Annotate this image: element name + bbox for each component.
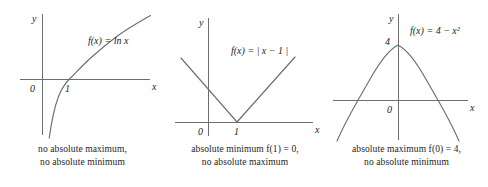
graph-four-minus-x-squared: y x 0 4 f(x) = 4 − x² [325,0,488,145]
tick-label-4: 4 [385,36,390,47]
x-axis-label: x [469,102,475,113]
function-label: f(x) = ln x [88,35,129,47]
ln-curve [49,16,150,139]
panel-four-minus-x-squared: y x 0 4 f(x) = 4 − x² absolute maximum f… [325,0,488,187]
tick-label-0: 0 [387,104,392,115]
tick-label-0: 0 [198,126,203,137]
absolute-value-curve [181,57,295,122]
function-label: f(x) = 4 − x² [410,25,461,37]
graph-abs-x-minus-1: y x 0 1 f(x) = | x − 1 | [165,0,325,145]
tick-label-1: 1 [65,83,70,94]
caption-line-2: no absolute minimum [352,156,461,169]
y-axis-label: y [388,13,394,24]
plot-abs-x-minus-1: y x 0 1 f(x) = | x − 1 | [165,0,325,145]
plot-ln-x: y x 0 1 f(x) = ln x [0,0,165,145]
absolute-extrema-figure: y x 0 1 f(x) = ln x no absolute maximum,… [0,0,488,187]
x-axis-label: x [314,124,320,135]
function-label: f(x) = | x − 1 | [231,45,288,57]
panel-ln-x: y x 0 1 f(x) = ln x no absolute maximum,… [0,0,165,187]
plot-four-minus-x-squared: y x 0 4 f(x) = 4 − x² [325,0,488,145]
tick-label-0: 0 [30,83,35,94]
caption-ln-x: no absolute maximum, no absolute minimum [38,143,127,168]
panel-abs-x-minus-1: y x 0 1 f(x) = | x − 1 | absolute minimu… [165,0,325,187]
caption-line-2: no absolute minimum [38,156,127,169]
caption-line-2: no absolute maximum [191,156,298,169]
x-axis-label: x [151,81,157,92]
caption-four-minus-x-squared: absolute maximum f(0) = 4, no absolute m… [352,143,461,168]
y-axis-label: y [198,17,204,28]
caption-abs-x-minus-1: absolute minimum f(1) = 0, no absolute m… [191,143,298,168]
graph-ln-x: y x 0 1 f(x) = ln x [0,0,165,145]
tick-label-1: 1 [234,126,239,137]
y-axis-label: y [31,13,37,24]
